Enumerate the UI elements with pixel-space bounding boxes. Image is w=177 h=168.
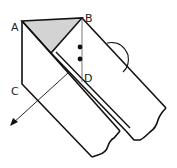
arrow-line bbox=[12, 73, 68, 124]
label-d: D bbox=[84, 72, 92, 85]
right-strip-torn-edge bbox=[126, 108, 166, 140]
left-strip-diagonal bbox=[22, 21, 120, 131]
angle-marker-1 bbox=[78, 45, 83, 50]
fold-line-outer bbox=[56, 52, 130, 128]
label-a: A bbox=[11, 21, 19, 34]
left-strip-torn-edge bbox=[92, 131, 120, 157]
label-b: B bbox=[85, 12, 93, 25]
angle-marker-2 bbox=[78, 57, 83, 62]
shaded-triangle bbox=[22, 18, 82, 53]
fold-line-inner bbox=[51, 53, 126, 131]
right-strip-outline bbox=[82, 18, 166, 108]
label-c: C bbox=[11, 85, 19, 98]
folded-strip-diagram: A B C D bbox=[0, 0, 177, 168]
